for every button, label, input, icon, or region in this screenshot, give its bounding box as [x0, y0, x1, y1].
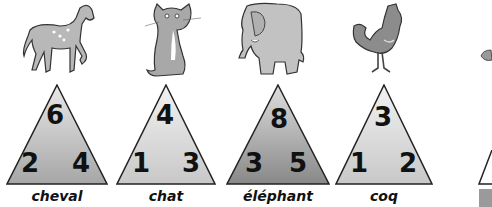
animal-label: cheval	[2, 188, 112, 204]
top-number: 6	[46, 102, 64, 128]
top-number: 3	[374, 104, 392, 130]
partial-label-box	[479, 189, 492, 207]
top-number: 8	[270, 106, 288, 132]
animal-label: éléphant	[223, 188, 333, 204]
animal-label: chat	[111, 188, 221, 204]
elephant-illustration	[237, 0, 309, 80]
right-number: 3	[182, 150, 200, 176]
right-number: 4	[72, 150, 90, 176]
left-number: 1	[350, 150, 368, 176]
animal-label: coq	[329, 188, 439, 204]
top-number: 4	[156, 102, 174, 128]
left-number: 2	[21, 150, 39, 176]
partial-animal-illustration	[479, 48, 492, 62]
triangle-shape	[226, 84, 330, 186]
partial-triangle	[478, 150, 492, 186]
left-number: 1	[132, 150, 150, 176]
rooster-illustration	[348, 0, 408, 78]
right-number: 5	[289, 150, 307, 176]
horse-illustration	[20, 0, 95, 78]
right-number: 2	[399, 150, 417, 176]
left-number: 3	[245, 150, 263, 176]
cat-illustration	[143, 0, 203, 80]
